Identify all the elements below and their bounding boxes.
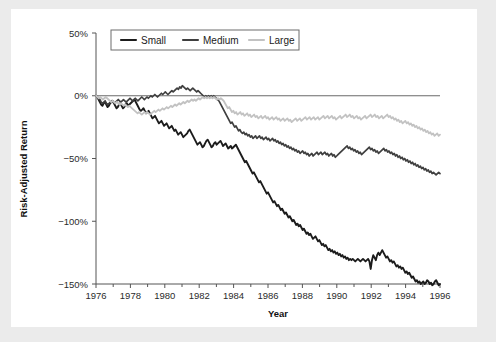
x-axis-title: Year <box>268 308 288 319</box>
figure-frame: Risk-Adjusted Return Year 50%0%−50%−100%… <box>0 0 496 342</box>
y-tick-label: 0% <box>74 90 88 101</box>
x-tick-label: 1992 <box>361 290 382 301</box>
x-tick-label: 1990 <box>326 290 347 301</box>
y-axis-ticks: 50%0%−50%−100%−150% <box>58 28 96 290</box>
y-tick-label: 50% <box>69 28 89 39</box>
x-tick-label: 1984 <box>223 290 244 301</box>
x-tick-label: 1976 <box>85 290 106 301</box>
y-axis-title: Risk-Adjusted Return <box>18 120 29 217</box>
x-tick-label: 1982 <box>189 290 210 301</box>
series-line-medium <box>96 86 440 175</box>
x-tick-label: 1996 <box>429 290 450 301</box>
series-line-large <box>96 96 440 136</box>
y-tick-label: −50% <box>63 153 88 164</box>
x-tick-label: 1978 <box>120 290 141 301</box>
x-axis-ticks: 1976197819801982198419861988199019921994… <box>85 284 450 301</box>
x-tick-label: 1994 <box>395 290 416 301</box>
y-tick-label: −100% <box>58 216 88 227</box>
legend-label-large[interactable]: Large <box>269 35 295 46</box>
chart-legend[interactable]: SmallMediumLarge <box>111 30 299 50</box>
x-tick-label: 1980 <box>154 290 175 301</box>
x-tick-label: 1986 <box>257 290 278 301</box>
series-line-small <box>96 96 440 286</box>
figure-canvas: Risk-Adjusted Return Year 50%0%−50%−100%… <box>11 9 477 327</box>
y-tick-label: −150% <box>58 279 88 290</box>
legend-label-medium[interactable]: Medium <box>203 35 239 46</box>
x-tick-label: 1988 <box>292 290 313 301</box>
legend-label-small[interactable]: Small <box>141 35 166 46</box>
data-series-group <box>96 86 440 286</box>
risk-adjusted-return-line-chart: Risk-Adjusted Return Year 50%0%−50%−100%… <box>11 9 477 327</box>
